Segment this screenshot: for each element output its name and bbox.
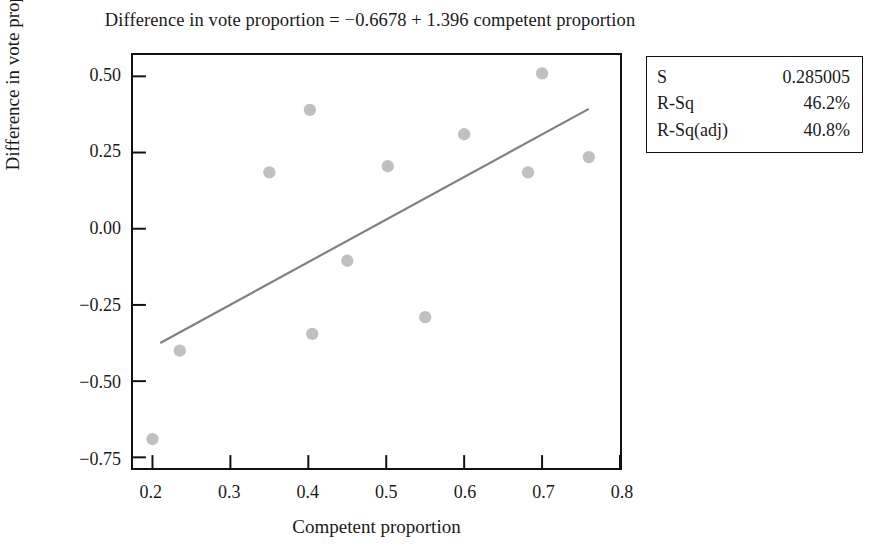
statistics-row: R-Sq46.2%: [647, 90, 862, 116]
x-tick-label: 0.7: [532, 482, 555, 503]
data-point: [382, 160, 394, 172]
statistics-value: 0.285005: [783, 64, 851, 90]
scatter-plot-figure: Difference in vote proportion = −0.6678 …: [0, 0, 881, 556]
data-point: [583, 151, 595, 163]
regression-line: [160, 109, 589, 343]
statistics-row: S0.285005: [647, 64, 862, 90]
plot-svg: [133, 55, 620, 468]
statistics-key: R-Sq(adj): [657, 117, 728, 143]
data-point: [522, 166, 534, 178]
axis-ticks: [133, 76, 620, 468]
data-point: [174, 345, 186, 357]
data-point: [536, 67, 548, 79]
x-tick-label: 0.3: [218, 482, 241, 503]
statistics-key: S: [657, 64, 667, 90]
x-tick-label: 0.5: [375, 482, 398, 503]
data-point: [306, 328, 318, 340]
data-point: [341, 255, 353, 267]
plot-area: [131, 53, 622, 470]
y-tick-label: −0.75: [0, 449, 121, 470]
statistics-value: 40.8%: [804, 117, 851, 143]
data-point: [458, 128, 470, 140]
y-tick-label: −0.25: [0, 295, 121, 316]
x-tick-label: 0.6: [454, 482, 477, 503]
data-point: [419, 311, 431, 323]
data-point: [263, 166, 275, 178]
statistics-value: 46.2%: [804, 90, 851, 116]
x-tick-label: 0.8: [611, 482, 634, 503]
data-point: [304, 104, 316, 116]
statistics-box: S0.285005R-Sq46.2%R-Sq(adj)40.8%: [646, 56, 863, 153]
statistics-row: R-Sq(adj)40.8%: [647, 117, 862, 143]
y-axis-title: Difference in vote proportion: [2, 0, 24, 239]
y-tick-label: −0.50: [0, 372, 121, 393]
chart-title: Difference in vote proportion = −0.6678 …: [0, 10, 740, 31]
x-axis-title: Competent proportion: [131, 516, 622, 538]
data-points: [146, 67, 595, 445]
data-point: [146, 433, 158, 445]
x-tick-label: 0.2: [139, 482, 162, 503]
x-tick-label: 0.4: [297, 482, 320, 503]
statistics-key: R-Sq: [657, 90, 694, 116]
